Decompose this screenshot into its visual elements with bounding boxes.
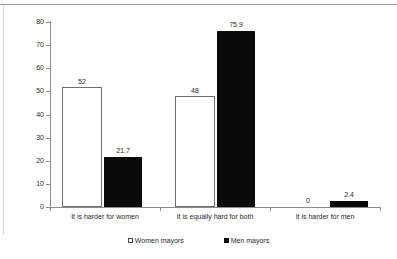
bar-women-harder-for-women: 52 <box>62 87 102 207</box>
bar-men-harder-for-women: 21.7 <box>104 157 142 207</box>
grouped-bar-chart: Percentage of mayors selecting response … <box>0 0 397 259</box>
y-tick-label: 60 <box>36 63 44 72</box>
bar-value-label: 21.7 <box>116 146 130 155</box>
x-tick-1 <box>160 207 161 211</box>
bar-women-equally-hard-for-both: 48 <box>175 96 215 207</box>
bar-men-harder-for-men: 2.4 <box>330 201 368 207</box>
x-tick-start <box>50 207 51 211</box>
legend-item-women-mayors: Women mayors <box>128 236 184 245</box>
y-tick-label: 30 <box>36 133 44 142</box>
plot-area: 0 10 20 30 40 50 60 70 <box>50 22 380 207</box>
open-square-icon <box>128 238 133 243</box>
bar-value-label: 48 <box>191 86 199 95</box>
x-category-label-equally-hard-for-both: It is equally hard for both <box>160 212 270 222</box>
legend-item-men-mayors: Men mayors <box>224 236 270 245</box>
x-axis-line <box>50 207 381 208</box>
y-tick-label: 10 <box>36 179 44 188</box>
x-category-label-harder-for-men: It is harder for men <box>270 212 380 222</box>
y-tick-label: 80 <box>36 17 44 26</box>
y-tick-label: 70 <box>36 40 44 49</box>
y-tick-label: 50 <box>36 86 44 95</box>
x-tick-end <box>380 207 381 211</box>
bar-value-label: 2.4 <box>344 190 354 199</box>
bar-value-label: 75.9 <box>229 20 243 29</box>
legend-label: Men mayors <box>231 236 270 245</box>
y-tick-label: 40 <box>36 110 44 119</box>
legend-label: Women mayors <box>135 236 184 245</box>
x-category-label-harder-for-women: It is harder for women <box>50 212 160 222</box>
y-tick-label: 0 <box>40 202 44 211</box>
chart-legend: Women mayors Men mayors <box>0 236 397 245</box>
x-tick-2 <box>270 207 271 211</box>
filled-square-icon <box>224 238 229 243</box>
bar-men-equally-hard-for-both: 75.9 <box>217 31 255 207</box>
y-tick-label: 20 <box>36 156 44 165</box>
bar-value-label: 0 <box>306 196 310 205</box>
bar-value-label: 52 <box>78 77 86 86</box>
